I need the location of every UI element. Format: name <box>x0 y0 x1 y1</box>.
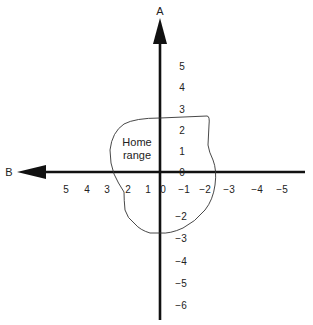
tick-label-b-neg5: −5 <box>276 184 288 195</box>
tick-label-b-1: 1 <box>145 184 151 195</box>
tick-label-b-neg2: −2 <box>199 184 211 195</box>
home-range-outline <box>110 116 216 233</box>
tick-label-b-neg3: −3 <box>223 184 235 195</box>
tick-label-b-neg4: −4 <box>251 184 263 195</box>
tick-label-a-4: 4 <box>179 82 185 93</box>
vertical-positive-labels: 5 4 3 2 1 0 <box>179 61 185 178</box>
vertical-negative-labels: −2 −3 −4 −5 −6 <box>175 211 187 311</box>
tick-label-b-0: 0 <box>160 184 166 195</box>
arrow-left-icon <box>17 165 46 179</box>
tick-label-a-3: 3 <box>179 104 185 115</box>
tick-label-b-5: 5 <box>63 184 69 195</box>
tick-label-b-2: 2 <box>125 184 131 195</box>
horizontal-right-labels: −1 −2 −3 −4 −5 <box>178 184 288 195</box>
tick-label-a-neg2: −2 <box>175 211 187 222</box>
axis-label-a: A <box>156 5 164 17</box>
axis-label-b: B <box>5 166 12 178</box>
home-range-label-line2: range <box>123 149 151 161</box>
tick-label-b-3: 3 <box>104 184 110 195</box>
tick-label-a-neg3: −3 <box>175 233 187 244</box>
tick-label-a-2: 2 <box>179 125 185 136</box>
tick-label-a-neg6: −6 <box>175 300 187 311</box>
horizontal-left-labels: 5 4 3 2 1 0 <box>63 184 166 195</box>
home-range-label-line1: Home <box>122 136 151 148</box>
tick-label-a-1: 1 <box>179 146 185 157</box>
tick-label-a-0: 0 <box>179 167 185 178</box>
tick-label-b-neg1: −1 <box>178 184 190 195</box>
coordinate-diagram: A B Home range 5 4 3 2 1 0 −2 −3 −4 −5 −… <box>0 0 313 325</box>
tick-label-a-5: 5 <box>179 61 185 72</box>
arrow-up-icon <box>153 18 167 44</box>
horizontal-axis-b: B <box>5 165 305 179</box>
tick-label-a-neg5: −5 <box>175 278 187 289</box>
tick-label-a-neg4: −4 <box>175 256 187 267</box>
tick-label-b-4: 4 <box>84 184 90 195</box>
vertical-axis-a: A <box>153 5 167 320</box>
